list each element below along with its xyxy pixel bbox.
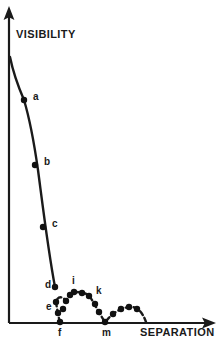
point-label-a: a (33, 91, 39, 102)
data-point-c (40, 224, 46, 230)
point-label-e: e (46, 301, 52, 312)
point-label-i: i (72, 275, 75, 286)
data-point-f (57, 319, 63, 325)
data-point-unlabeled-1 (60, 306, 66, 312)
y-axis-group (4, 6, 15, 323)
data-point-unlabeled-2 (63, 298, 69, 304)
data-point-m (102, 319, 108, 325)
plot-canvas: VISIBILITY SEPARATION abcdefikm (0, 0, 222, 342)
data-point-b (32, 162, 38, 168)
point-label-d: d (45, 279, 51, 290)
data-point-e (53, 299, 59, 305)
point-label-c: c (52, 218, 58, 229)
data-point-unlabeled-3 (67, 292, 73, 298)
curves-group (10, 57, 146, 322)
data-point-unlabeled-5 (92, 301, 98, 307)
chart-figure: VISIBILITY SEPARATION abcdefikm (0, 0, 222, 342)
point-label-k: k (96, 285, 102, 296)
point-label-b: b (44, 156, 50, 167)
data-point-unlabeled-7 (110, 311, 116, 317)
data-point-unlabeled-4 (79, 290, 85, 296)
data-point-unlabeled-10 (134, 306, 140, 312)
data-point-d (52, 284, 58, 290)
x-axis-title: SEPARATION (140, 326, 215, 338)
y-axis-title: VISIBILITY (16, 28, 76, 40)
data-point-unlabeled-8 (118, 306, 124, 312)
data-point-unlabeled-0 (55, 310, 61, 316)
point-label-f: f (58, 327, 62, 338)
data-points-layer (21, 97, 140, 325)
data-point-unlabeled-9 (126, 304, 132, 310)
data-point-k (86, 293, 92, 299)
data-point-unlabeled-6 (96, 309, 102, 315)
point-label-m: m (102, 327, 111, 338)
data-point-a (21, 97, 27, 103)
